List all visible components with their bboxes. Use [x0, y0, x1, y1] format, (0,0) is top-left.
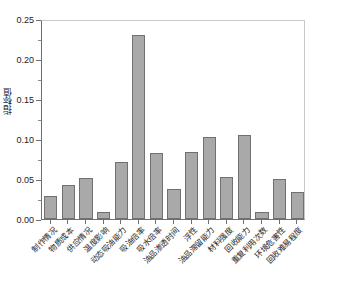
x-axis-tick-mark [243, 220, 244, 224]
x-axis-tick-mark [85, 220, 86, 224]
bar [238, 135, 251, 219]
bar [79, 178, 92, 219]
x-axis-tick-mark [296, 220, 297, 224]
x-axis-tick-mark [50, 220, 51, 224]
x-axis-tick-mark [67, 220, 68, 224]
bar [291, 192, 304, 219]
x-axis-tick-mark [155, 220, 156, 224]
bar [150, 153, 163, 219]
x-axis-tick-mark [226, 220, 227, 224]
plot-area [41, 20, 305, 220]
y-axis-tick-label: 0.15 [0, 96, 34, 105]
y-axis-tick-label: 0.25 [0, 16, 34, 25]
bar-chart-figure: 指标值 0.000.050.100.150.200.25 制作情况物质成本供应情… [0, 0, 338, 296]
bar [220, 177, 233, 219]
x-axis-tick-mark [208, 220, 209, 224]
y-axis-tick-label: 0.05 [0, 176, 34, 185]
x-axis-tick-mark [103, 220, 104, 224]
bar-series [42, 21, 304, 219]
y-axis-tick-label: 0.20 [0, 56, 34, 65]
y-axis-tick-label: 0.00 [0, 216, 34, 225]
bar [132, 35, 145, 219]
x-axis-tick-mark [261, 220, 262, 224]
bar [273, 179, 286, 219]
bar [44, 196, 57, 219]
bar [167, 189, 180, 219]
bar [62, 185, 75, 219]
x-axis-tick-mark [191, 220, 192, 224]
x-axis-tick-mark [138, 220, 139, 224]
bar [97, 212, 110, 219]
x-axis-tick-mark [279, 220, 280, 224]
bar [185, 152, 198, 219]
x-axis-tick-mark [173, 220, 174, 224]
y-axis-tick-mark [36, 220, 41, 221]
x-axis-tick-mark [120, 220, 121, 224]
bar [115, 162, 128, 219]
bar [255, 212, 268, 219]
bar [203, 137, 216, 219]
y-axis-tick-label: 0.10 [0, 136, 34, 145]
